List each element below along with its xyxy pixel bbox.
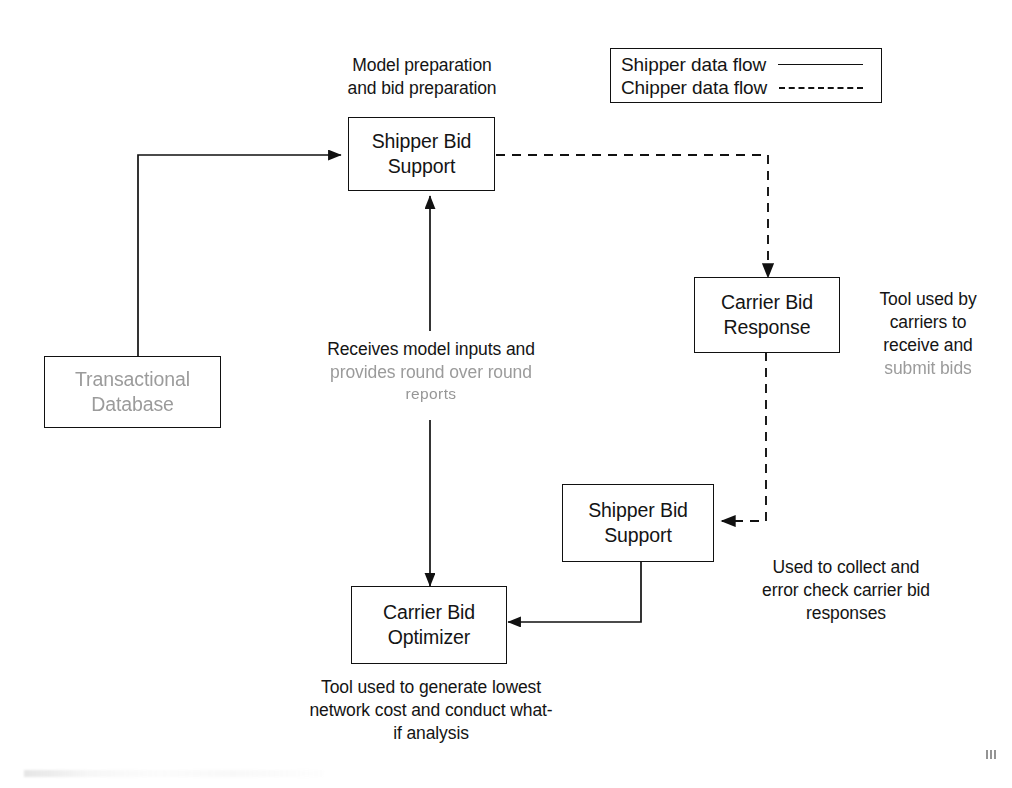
note-line: Receives model inputs and bbox=[300, 338, 562, 361]
node-label-line: Transactional bbox=[75, 367, 190, 392]
note-tool-used-by-carriers: Tool used by carriers to receive and sub… bbox=[862, 288, 994, 380]
legend-label-chipper: Chipper data flow bbox=[621, 77, 767, 99]
legend-row-shipper: Shipper data flow bbox=[621, 53, 871, 76]
edge-carrier-bid-response-to-shipper-bid-support-lower bbox=[722, 352, 766, 521]
note-model-preparation: Model preparation and bid preparation bbox=[322, 54, 522, 100]
note-line: receive and bbox=[862, 334, 994, 357]
note-line: and bid preparation bbox=[322, 77, 522, 100]
legend-row-chipper: Chipper data flow bbox=[621, 76, 871, 99]
note-line: carriers to bbox=[862, 311, 994, 334]
note-line: if analysis bbox=[288, 722, 574, 745]
node-label-line: Support bbox=[604, 523, 672, 548]
note-line: Tool used by bbox=[862, 288, 994, 311]
node-shipper-bid-support-lower[interactable]: Shipper Bid Support bbox=[562, 484, 714, 562]
note-line: Used to collect and bbox=[740, 556, 952, 579]
node-label-line: Carrier Bid bbox=[721, 290, 813, 315]
note-line: reports bbox=[300, 384, 562, 404]
node-label-line: Shipper Bid bbox=[372, 129, 472, 154]
note-used-to-collect: Used to collect and error check carrier … bbox=[740, 556, 952, 625]
edge-database-to-shipper-bid-support bbox=[138, 155, 341, 356]
node-carrier-bid-optimizer[interactable]: Carrier Bid Optimizer bbox=[351, 586, 507, 664]
scan-artifact-mark bbox=[986, 750, 996, 759]
node-transactional-database[interactable]: Transactional Database bbox=[44, 356, 221, 428]
node-shipper-bid-support-top[interactable]: Shipper Bid Support bbox=[348, 117, 495, 191]
note-line: provides round over round bbox=[300, 361, 562, 384]
node-label-line: Shipper Bid bbox=[588, 498, 688, 523]
edge-shipper-bid-support-to-carrier-bid-response bbox=[496, 155, 768, 277]
note-line: responses bbox=[740, 602, 952, 625]
scan-artifact-smudge bbox=[24, 770, 324, 777]
diagram-canvas: Shipper data flow Chipper data flow Mode… bbox=[0, 0, 1012, 788]
flow-legend: Shipper data flow Chipper data flow bbox=[610, 48, 882, 103]
note-line: Model preparation bbox=[322, 54, 522, 77]
node-label-line: Carrier Bid bbox=[383, 600, 475, 625]
note-line: submit bids bbox=[862, 357, 994, 380]
node-label-line: Database bbox=[91, 392, 174, 417]
node-label-line: Support bbox=[388, 154, 456, 179]
legend-label-shipper: Shipper data flow bbox=[621, 54, 766, 76]
node-carrier-bid-response[interactable]: Carrier Bid Response bbox=[694, 277, 840, 353]
note-tool-used-to-generate: Tool used to generate lowest network cos… bbox=[288, 676, 574, 745]
note-line: error check carrier bid bbox=[740, 579, 952, 602]
edge-shipper-bid-support-lower-to-carrier-bid-optimizer bbox=[508, 562, 641, 622]
legend-sample-dashed bbox=[777, 82, 871, 94]
node-label-line: Optimizer bbox=[388, 625, 471, 650]
note-line: Tool used to generate lowest bbox=[288, 676, 574, 699]
legend-sample-solid bbox=[776, 59, 871, 71]
note-receives-model-inputs: Receives model inputs and provides round… bbox=[300, 338, 562, 405]
node-label-line: Response bbox=[723, 315, 810, 340]
note-line: network cost and conduct what- bbox=[288, 699, 574, 722]
